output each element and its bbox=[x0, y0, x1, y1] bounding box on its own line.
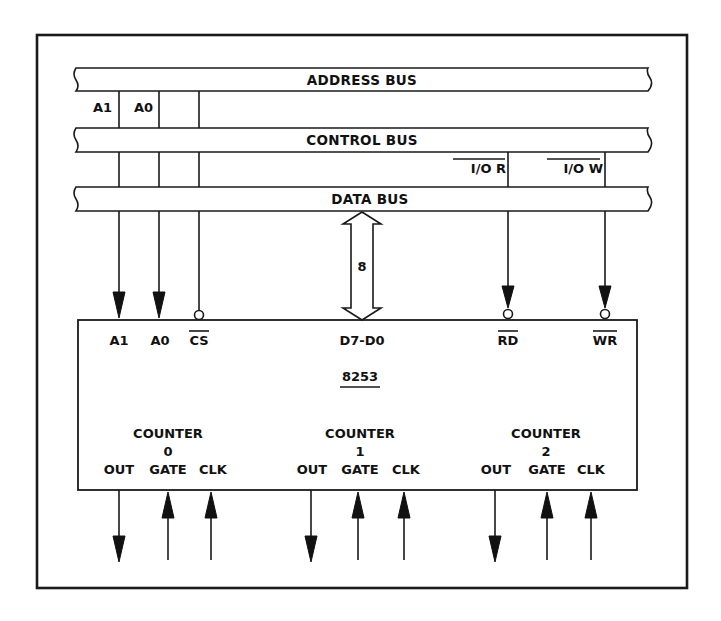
control-bus-label: CONTROL BUS bbox=[306, 132, 417, 148]
a1-arrowhead-icon bbox=[113, 292, 125, 318]
io-write-label: I/O W bbox=[563, 161, 603, 176]
a0-arrowhead-icon bbox=[153, 292, 165, 318]
counter-0-out-arrowhead-icon bbox=[113, 536, 125, 562]
address-tap-a0-label: A0 bbox=[134, 100, 153, 115]
counter-0-number: 0 bbox=[163, 444, 172, 459]
counter-1-out-arrowhead-icon bbox=[305, 536, 317, 562]
counter-2-clk-label: CLK bbox=[577, 462, 606, 477]
counter-0-gate-arrowhead-icon bbox=[162, 492, 174, 518]
pin-wr-label: WR bbox=[593, 333, 617, 348]
counter-1-title: COUNTER bbox=[325, 426, 395, 441]
cs-active-low-bubble bbox=[195, 311, 204, 320]
wr-active-low-bubble bbox=[601, 310, 610, 319]
counter-2-title: COUNTER bbox=[511, 426, 581, 441]
counter-1-signals bbox=[305, 490, 410, 562]
counter-0-clk-label: CLK bbox=[199, 462, 228, 477]
data-width-label: 8 bbox=[357, 259, 366, 274]
chip-name-label: 8253 bbox=[342, 369, 378, 384]
counter-1-clk-label: CLK bbox=[392, 462, 421, 477]
counter-0-clk-arrowhead-icon bbox=[205, 492, 217, 518]
pin-rd-label: RD bbox=[498, 333, 519, 348]
pin-a1-label: A1 bbox=[109, 333, 128, 348]
data-bus-label: DATA BUS bbox=[331, 191, 408, 207]
counter-2-gate-arrowhead-icon bbox=[541, 492, 553, 518]
address-bus-label: ADDRESS BUS bbox=[307, 72, 417, 88]
rd-arrowhead-icon bbox=[502, 286, 514, 308]
address-bus: ADDRESS BUS bbox=[74, 68, 652, 91]
counter-2-out-arrowhead-icon bbox=[489, 536, 501, 562]
counter-1-clk-arrowhead-icon bbox=[398, 492, 410, 518]
counter-1-number: 1 bbox=[355, 444, 364, 459]
counter-0: COUNTER 0 OUT GATE CLK bbox=[104, 426, 228, 477]
wr-arrowhead-icon bbox=[599, 286, 611, 308]
counter-0-title: COUNTER bbox=[133, 426, 203, 441]
pin-data-label: D7-D0 bbox=[339, 333, 384, 348]
diagram-canvas: ADDRESS BUS A1 A0 CONTROL BUS I/O R I/O … bbox=[0, 0, 721, 621]
io-read-tap: I/O R bbox=[453, 159, 506, 176]
counter-1: COUNTER 1 OUT GATE CLK bbox=[297, 426, 421, 477]
data-bus: DATA BUS bbox=[74, 187, 652, 211]
io-read-label: I/O R bbox=[471, 161, 506, 176]
counter-1-out-label: OUT bbox=[297, 462, 328, 477]
counter-2-out-label: OUT bbox=[481, 462, 512, 477]
counter-0-signals bbox=[113, 490, 217, 562]
rd-active-low-bubble bbox=[504, 310, 513, 319]
control-bus: CONTROL BUS bbox=[74, 128, 652, 152]
counter-0-gate-label: GATE bbox=[149, 462, 186, 477]
counter-2-gate-label: GATE bbox=[528, 462, 565, 477]
counter-2-number: 2 bbox=[541, 444, 550, 459]
io-write-tap: I/O W bbox=[547, 159, 603, 176]
counter-0-out-label: OUT bbox=[104, 462, 135, 477]
pin-a0-label: A0 bbox=[150, 333, 169, 348]
data-bus-bidirectional-arrow: 8 bbox=[343, 212, 381, 320]
pin-cs-label: CS bbox=[189, 333, 208, 348]
counter-1-gate-arrowhead-icon bbox=[352, 492, 364, 518]
counter-2: COUNTER 2 OUT GATE CLK bbox=[481, 426, 606, 477]
counter-2-signals bbox=[489, 490, 597, 562]
counter-2-clk-arrowhead-icon bbox=[585, 492, 597, 518]
counter-1-gate-label: GATE bbox=[341, 462, 378, 477]
address-tap-a1-label: A1 bbox=[93, 100, 112, 115]
